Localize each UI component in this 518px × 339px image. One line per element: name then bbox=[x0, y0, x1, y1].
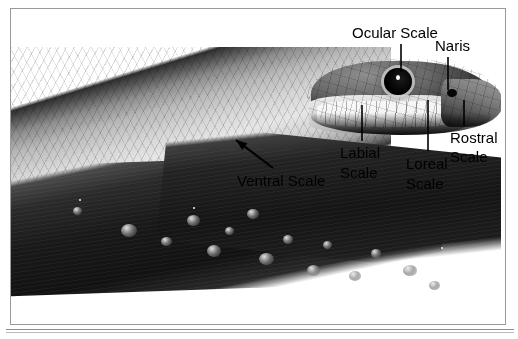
label-loreal-scale-line-2: Scale bbox=[406, 176, 448, 191]
label-rostral-scale-line-1: Rostral bbox=[450, 130, 498, 145]
plate-rule-upper bbox=[6, 329, 514, 330]
label-labial-scale-line-1: Labial bbox=[340, 145, 380, 160]
label-ventral-scale-line-1: Ventral Scale bbox=[237, 173, 325, 188]
label-labial-scale: Labial Scale bbox=[340, 145, 380, 180]
label-naris-line-1: Naris bbox=[435, 38, 470, 53]
label-ocular-scale-line-1: Ocular Scale bbox=[352, 25, 438, 40]
label-loreal-scale-line-1: Loreal bbox=[406, 156, 448, 171]
label-rostral-scale: Rostral Scale bbox=[450, 130, 498, 164]
label-labial-scale-line-2: Scale bbox=[340, 165, 380, 180]
plate-rule-lower bbox=[6, 332, 514, 333]
label-rostral-scale-line-2: Scale bbox=[450, 149, 498, 164]
label-ventral-scale: Ventral Scale bbox=[237, 173, 325, 188]
label-ocular-scale: Ocular Scale bbox=[352, 25, 438, 40]
figure-root: Ocular Scale Naris Labial Scale Loreal S… bbox=[0, 0, 518, 339]
label-loreal-scale: Loreal Scale bbox=[406, 156, 448, 191]
label-naris: Naris bbox=[435, 38, 470, 53]
annotation-layer: Ocular Scale Naris Labial Scale Loreal S… bbox=[0, 0, 518, 339]
